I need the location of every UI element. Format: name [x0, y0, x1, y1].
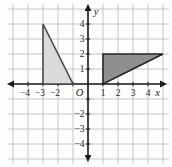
x-tick-label: 3 — [131, 88, 136, 98]
coordinate-plane-figure: −4−3−212344321−2−3−4 x y O — [0, 0, 172, 167]
x-tick-label: 2 — [116, 88, 121, 98]
y-tick-label: −4 — [74, 139, 84, 149]
y-tick-label: −2 — [74, 109, 84, 119]
x-axis-letter: x — [154, 87, 160, 98]
y-tick-label: 1 — [80, 64, 85, 74]
x-tick-label: −3 — [35, 88, 45, 98]
x-axis-left-arrow-icon — [7, 81, 14, 88]
axes — [7, 4, 167, 162]
origin-label: O — [76, 87, 84, 98]
x-tick-label: −2 — [50, 88, 60, 98]
y-tick-label: 2 — [80, 49, 85, 59]
y-tick-label: 3 — [80, 34, 85, 44]
y-axis-letter: y — [93, 6, 99, 17]
y-tick-label: −3 — [74, 124, 84, 134]
x-tick-label: 1 — [101, 88, 106, 98]
x-tick-label: −4 — [20, 88, 30, 98]
y-tick-label: 4 — [80, 19, 85, 29]
coordinate-grid-svg: −4−3−212344321−2−3−4 x y O — [0, 0, 172, 167]
y-axis-up-arrow-icon — [85, 4, 92, 11]
x-tick-label: 4 — [146, 88, 151, 98]
